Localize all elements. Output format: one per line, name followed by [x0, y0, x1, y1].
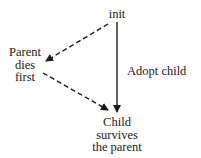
- node-parent-dies-first: Parent dies first: [2, 46, 48, 84]
- edge-label-adopt-child: Adopt child: [127, 65, 186, 78]
- edge-init-to-parent-dies: [46, 24, 108, 61]
- node-child-survives: Child survives the parent: [82, 116, 152, 154]
- node-parent-line-3: first: [2, 71, 48, 84]
- node-parent-line-1: Parent: [2, 46, 48, 59]
- node-child-line-3: the parent: [82, 141, 152, 154]
- node-init: init: [103, 8, 131, 21]
- node-init-label: init: [109, 7, 126, 21]
- edge-parent-dies-to-child: [43, 73, 108, 110]
- node-child-line-1: Child: [82, 116, 152, 129]
